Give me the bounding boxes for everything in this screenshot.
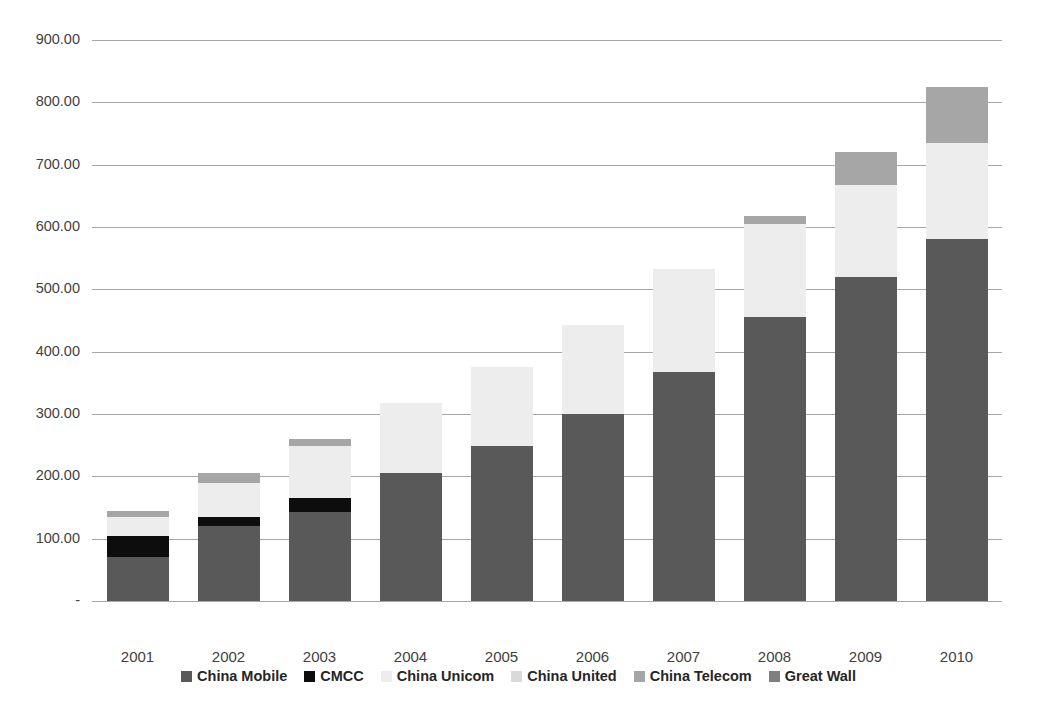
bar-segment-china-unicom[interactable] bbox=[198, 483, 260, 517]
legend-item[interactable]: China Telecom bbox=[634, 668, 752, 684]
bar-segment-china-unicom[interactable] bbox=[562, 325, 624, 414]
bar-column[interactable] bbox=[926, 40, 988, 601]
legend-item[interactable]: China Unicom bbox=[381, 668, 494, 684]
y-axis-label: 200.00 bbox=[0, 468, 80, 483]
bar-column[interactable] bbox=[107, 40, 169, 601]
bar-series-container bbox=[92, 40, 1002, 601]
bar-segment-china-mobile[interactable] bbox=[744, 317, 806, 601]
bar-segment-cmcc[interactable] bbox=[289, 498, 351, 512]
y-axis-label: 800.00 bbox=[0, 94, 80, 109]
bar-segment-china-unicom[interactable] bbox=[107, 517, 169, 536]
bar-segment-china-telecom[interactable] bbox=[289, 439, 351, 446]
x-axis-label: 2003 bbox=[275, 648, 365, 665]
chart-legend: China MobileCMCCChina UnicomChina United… bbox=[0, 668, 1037, 684]
bar-segment-china-telecom[interactable] bbox=[198, 473, 260, 482]
legend-swatch-icon bbox=[381, 671, 392, 682]
bar-segment-china-unicom[interactable] bbox=[471, 367, 533, 447]
legend-label: China Unicom bbox=[397, 668, 494, 684]
bar-segment-china-mobile[interactable] bbox=[562, 414, 624, 601]
bar-segment-china-mobile[interactable] bbox=[380, 473, 442, 601]
y-axis-label: - bbox=[0, 593, 80, 608]
bar-column[interactable] bbox=[380, 40, 442, 601]
x-axis-label: 2002 bbox=[184, 648, 274, 665]
bar-segment-china-mobile[interactable] bbox=[107, 557, 169, 601]
bar-segment-china-mobile[interactable] bbox=[289, 512, 351, 601]
legend-label: China Mobile bbox=[197, 668, 287, 684]
x-axis-label: 2007 bbox=[639, 648, 729, 665]
bar-segment-china-mobile[interactable] bbox=[471, 446, 533, 601]
bar-segment-china-telecom[interactable] bbox=[926, 87, 988, 143]
y-axis-label: 300.00 bbox=[0, 406, 80, 421]
y-axis-label: 900.00 bbox=[0, 32, 80, 47]
legend-item[interactable]: CMCC bbox=[304, 668, 364, 684]
x-axis-label: 2004 bbox=[366, 648, 456, 665]
stacked-bar-chart: 900.00800.00700.00600.00500.00400.00300.… bbox=[0, 0, 1037, 720]
legend-swatch-icon bbox=[304, 671, 315, 682]
bar-segment-china-mobile[interactable] bbox=[653, 372, 715, 601]
bar-segment-cmcc[interactable] bbox=[107, 536, 169, 558]
axis-baseline bbox=[92, 601, 1002, 602]
y-axis-label: 500.00 bbox=[0, 281, 80, 296]
bar-segment-china-telecom[interactable] bbox=[107, 511, 169, 517]
bar-segment-china-unicom[interactable] bbox=[289, 446, 351, 498]
bar-column[interactable] bbox=[835, 40, 897, 601]
bar-column[interactable] bbox=[653, 40, 715, 601]
bar-segment-china-unicom[interactable] bbox=[380, 403, 442, 473]
x-axis-label: 2006 bbox=[548, 648, 638, 665]
bar-segment-china-mobile[interactable] bbox=[198, 526, 260, 601]
y-axis-label: 600.00 bbox=[0, 219, 80, 234]
x-axis-label: 2008 bbox=[730, 648, 820, 665]
bar-column[interactable] bbox=[471, 40, 533, 601]
legend-label: CMCC bbox=[320, 668, 364, 684]
x-axis-label: 2001 bbox=[93, 648, 183, 665]
bar-segment-china-unicom[interactable] bbox=[653, 269, 715, 372]
legend-label: China Telecom bbox=[650, 668, 752, 684]
legend-item[interactable]: China United bbox=[511, 668, 616, 684]
x-axis-label: 2005 bbox=[457, 648, 547, 665]
x-axis-label: 2009 bbox=[821, 648, 911, 665]
bar-column[interactable] bbox=[289, 40, 351, 601]
y-axis-label: 700.00 bbox=[0, 157, 80, 172]
legend-item[interactable]: China Mobile bbox=[181, 668, 287, 684]
bar-segment-china-unicom[interactable] bbox=[744, 224, 806, 318]
bar-segment-china-mobile[interactable] bbox=[835, 277, 897, 601]
legend-swatch-icon bbox=[511, 671, 522, 682]
bar-segment-china-unicom[interactable] bbox=[926, 143, 988, 240]
y-axis-label: 400.00 bbox=[0, 344, 80, 359]
plot-area: 900.00800.00700.00600.00500.00400.00300.… bbox=[92, 40, 1002, 602]
legend-item[interactable]: Great Wall bbox=[769, 668, 856, 684]
bar-segment-china-unicom[interactable] bbox=[835, 185, 897, 277]
legend-label: China United bbox=[527, 668, 616, 684]
legend-swatch-icon bbox=[181, 671, 192, 682]
bar-segment-china-mobile[interactable] bbox=[926, 239, 988, 601]
bar-segment-china-telecom[interactable] bbox=[835, 152, 897, 184]
bar-column[interactable] bbox=[198, 40, 260, 601]
legend-swatch-icon bbox=[634, 671, 645, 682]
legend-swatch-icon bbox=[769, 671, 780, 682]
legend-label: Great Wall bbox=[785, 668, 856, 684]
bar-segment-cmcc[interactable] bbox=[198, 517, 260, 526]
bar-column[interactable] bbox=[562, 40, 624, 601]
x-axis-label: 2010 bbox=[912, 648, 1002, 665]
bar-column[interactable] bbox=[744, 40, 806, 601]
bar-segment-china-telecom[interactable] bbox=[744, 216, 806, 223]
y-axis-label: 100.00 bbox=[0, 531, 80, 546]
